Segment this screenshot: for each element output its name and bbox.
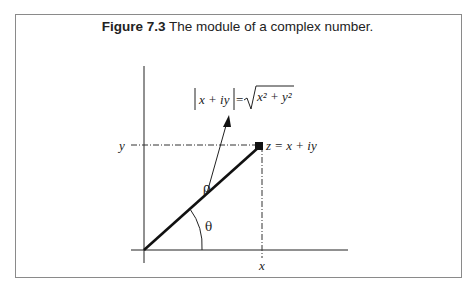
formula-radicand: x² + y² xyxy=(256,89,293,104)
theta-arc xyxy=(190,209,202,250)
arrowhead-icon xyxy=(223,115,231,127)
formula-equals: = xyxy=(236,92,243,107)
point-label: z = x + iy xyxy=(265,138,317,153)
rho-label: ρ xyxy=(203,180,211,195)
point-z xyxy=(255,142,263,150)
y-label: y xyxy=(117,138,125,153)
x-label: x xyxy=(258,258,265,273)
formula-lhs: x + iy xyxy=(198,92,230,107)
theta-label: θ xyxy=(205,220,212,234)
complex-plane-diagram: ρ θ y x z = x + iy x + iy = x² + y² xyxy=(0,0,475,295)
